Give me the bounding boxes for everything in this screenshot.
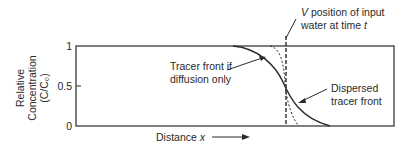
dispersed-arrowhead (298, 98, 306, 103)
y-axis-label-line-1: Relative (14, 55, 26, 120)
velocity-symbol: V (301, 6, 308, 18)
dispersed-label-line-2: tracer front (331, 95, 382, 107)
diffusion-only-label-line-1: Tracer front if (170, 60, 232, 72)
diffusion-only-label-line-2: diffusion only (170, 73, 231, 85)
input-water-leader (286, 19, 296, 38)
input-water-label-line-2: water at time t (301, 19, 367, 31)
input-water-text-1: position of input (308, 6, 384, 18)
y-tick-1: 1 (52, 40, 72, 52)
x-axis-label-text: Distance (156, 131, 200, 143)
diffusion-only-leader (227, 58, 262, 70)
distance-arrow-icon (242, 134, 250, 140)
y-axis-label-line-3: (C/C₀) (38, 55, 50, 120)
input-water-text-2: water at time (301, 19, 364, 31)
x-axis-label: Distance x (156, 131, 205, 143)
y-tick-0-5: 0.5 (52, 80, 72, 92)
dispersed-label-line-1: Dispersed (331, 82, 378, 94)
y-axis-label-line-2: Concentration (26, 55, 38, 120)
input-water-label-line-1: V position of input (301, 6, 384, 18)
time-symbol: t (364, 19, 367, 31)
dispersed-leader (302, 89, 327, 101)
x-symbol: x (200, 131, 205, 143)
y-tick-0: 0 (52, 120, 72, 132)
